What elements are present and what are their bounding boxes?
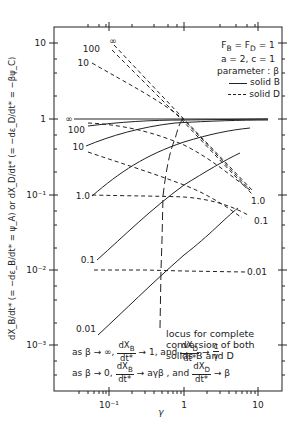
formula1-prefix: as β → ∞, [72,347,114,357]
y-axis-label: dX_B/dt* (= −dε_B/dt* = ψ_A) or dX_D/dt*… [7,80,17,340]
y-tick-0.1: 10⁻¹ [26,190,46,200]
curve-d-0.1-upper [88,152,242,218]
legend-entry-solid-b: solid B [206,77,290,89]
y-tick-10: 10 [35,38,47,48]
formula1-arrow2: → [202,347,210,357]
legend: FB = FD = 1 a = 2, c = 1 parameter : β s… [206,40,290,100]
label-d-1-right: 1.0 [251,196,266,206]
series-solid-b [74,119,268,335]
curve-b-0.1 [97,153,240,260]
legend-entry-solid-d: solid D [206,89,290,101]
label-d-100-upper: 100 [83,44,100,54]
curve-b-1 [92,128,250,196]
formula2-frac-d: dXDdt* [192,362,211,384]
formula2-prefix: as β → 0, [72,368,113,378]
y-tick-0.001: 10⁻³ [26,340,46,350]
curve-d-1 [92,195,248,215]
y-tick-1: 1 [40,114,46,124]
formula2-frac-b: dXBdt* [116,362,134,384]
formula-beta-infinity: as β → ∞, dXBdt* → 1, and dXDdt* → cγ [72,341,219,363]
x-tick-0.1: 10⁻¹ [99,400,119,410]
solid-line-swatch [229,83,247,84]
label-b-100: 100 [68,125,85,135]
label-d-0.1-right: 0.1 [254,216,268,226]
legend-f2: = F [232,40,250,50]
legend-params-line2: a = 2, c = 1 [206,54,290,66]
y-tick-0.01: 10⁻² [26,265,46,275]
formula1-arrow1: → 1, and [139,347,178,357]
label-b-0.01: 0.01 [76,324,96,334]
formula1-result: cγ [213,342,220,361]
label-b-10: 10 [73,142,85,152]
formula2-arrow2: → β [214,368,230,378]
dashed-line-swatch [228,94,246,95]
label-b-0.1: 0.1 [81,255,95,265]
formula1-frac-b: dXBdt* [117,341,135,363]
formula2-arrow1: → aγβ , and [137,368,190,378]
legend-eq: = 1 [256,40,275,50]
legend-params-line1: FB = FD = 1 [206,40,290,54]
label-b-inf: ∞ [65,114,73,124]
label-d-10-upper: 10 [78,58,90,68]
x-tick-10: 10 [252,400,264,410]
formula1-frac-d: dXDdt* [180,341,199,363]
formula-beta-zero: as β → 0, dXBdt* → aγβ , and dXDdt* → β [72,362,230,384]
locus-curve [160,119,183,328]
x-tick-1: 1 [181,400,187,410]
legend-label-solid-d: solid D [249,89,280,101]
label-b-1: 1.0 [76,191,91,201]
locus-note-line1: locus for complete [166,328,255,339]
curve-d-0.01 [94,270,245,272]
legend-label-solid-b: solid B [250,77,280,89]
curve-b-0.01 [98,208,238,335]
legend-params-line3: parameter : β [206,66,290,78]
x-axis-label: γ [158,407,164,417]
label-d-0.01-right: 0.01 [247,267,267,277]
label-d-inf-upper: ∞ [109,36,117,46]
